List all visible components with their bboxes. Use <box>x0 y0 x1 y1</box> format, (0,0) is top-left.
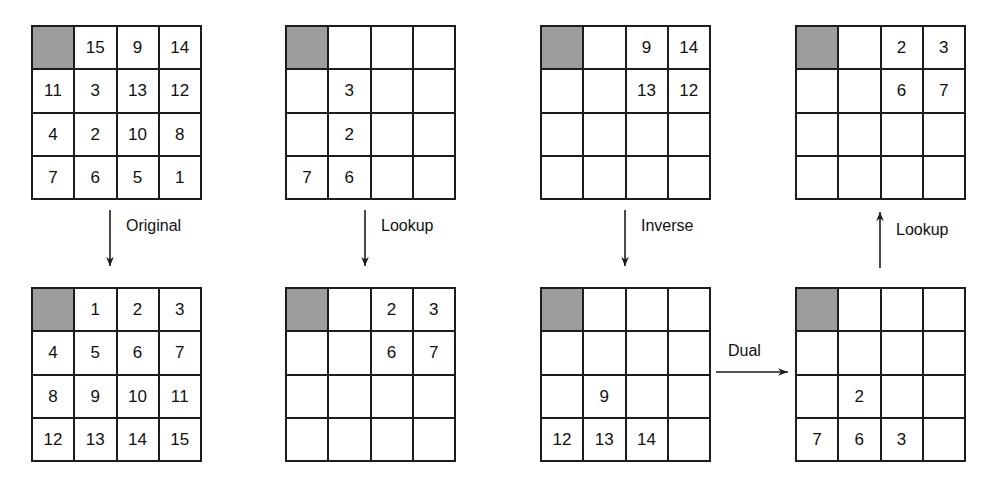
grid-cell <box>542 157 584 200</box>
grid-cell <box>669 332 711 375</box>
grid-cell <box>287 114 329 157</box>
grid-cell <box>584 332 626 375</box>
bottom-left-grid: 123456789101112131415 <box>31 287 202 462</box>
grid-cell: 15 <box>160 419 202 462</box>
grid-cell <box>797 376 839 419</box>
grid-cell <box>839 332 881 375</box>
grid-cell <box>372 114 414 157</box>
grid-cell <box>287 376 329 419</box>
grid-cell: 7 <box>797 419 839 462</box>
grid-cell-shaded <box>797 27 839 70</box>
grid-cell: 6 <box>372 332 414 375</box>
grid-cell <box>372 157 414 200</box>
grid-cell: 14 <box>669 27 711 70</box>
grid-cell: 5 <box>75 332 117 375</box>
grid-cell <box>882 289 924 332</box>
grid-cell <box>839 70 881 113</box>
grid-cell <box>882 332 924 375</box>
grid-cell <box>414 70 456 113</box>
bottom-second-grid: 2367 <box>285 287 456 462</box>
grid-cell <box>924 332 966 375</box>
grid-cell <box>542 70 584 113</box>
grid-cell: 2 <box>372 289 414 332</box>
grid-cell <box>372 70 414 113</box>
grid-cell: 7 <box>287 157 329 200</box>
arrow-original <box>103 210 117 266</box>
grid-cell: 3 <box>75 70 117 113</box>
grid-cell-shaded <box>542 27 584 70</box>
grid-cell: 13 <box>75 419 117 462</box>
grid-cell: 14 <box>160 27 202 70</box>
grid-cell <box>542 114 584 157</box>
grid-cell: 3 <box>414 289 456 332</box>
grid-cell: 2 <box>329 114 371 157</box>
grid-cell <box>627 114 669 157</box>
grid-cell: 7 <box>924 70 966 113</box>
grid-cell <box>414 376 456 419</box>
grid-cell: 6 <box>75 157 117 200</box>
grid-cell <box>372 419 414 462</box>
grid-cell <box>414 114 456 157</box>
grid-cell <box>797 332 839 375</box>
grid-cell <box>839 27 881 70</box>
grid-cell <box>669 114 711 157</box>
grid-cell <box>329 289 371 332</box>
arrow-lookup-right-label: Lookup <box>896 222 949 238</box>
arrow-dual <box>716 365 788 379</box>
grid-cell <box>542 332 584 375</box>
grid-cell: 11 <box>160 376 202 419</box>
grid-cell: 14 <box>118 419 160 462</box>
grid-cell <box>584 70 626 113</box>
grid-cell <box>287 419 329 462</box>
arrow-lookup-right <box>873 212 887 268</box>
grid-cell: 10 <box>118 114 160 157</box>
grid-cell: 2 <box>839 376 881 419</box>
top-third-grid: 9141312 <box>540 25 711 200</box>
arrow-original-label: Original <box>126 218 181 234</box>
bottom-third-grid: 9121314 <box>540 287 711 462</box>
grid-cell <box>924 419 966 462</box>
grid-cell: 9 <box>118 27 160 70</box>
grid-cell <box>414 157 456 200</box>
grid-cell <box>882 376 924 419</box>
grid-cell <box>372 376 414 419</box>
grid-cell <box>287 332 329 375</box>
arrow-inverse-label: Inverse <box>641 218 693 234</box>
grid-cell <box>584 114 626 157</box>
grid-cell: 13 <box>118 70 160 113</box>
grid-cell <box>329 332 371 375</box>
grid-cell <box>329 27 371 70</box>
grid-cell: 13 <box>584 419 626 462</box>
grid-cell <box>584 289 626 332</box>
arrow-dual-label: Dual <box>728 343 761 359</box>
grid-cell: 11 <box>33 70 75 113</box>
grid-cell: 12 <box>669 70 711 113</box>
grid-cell: 9 <box>75 376 117 419</box>
grid-cell: 1 <box>160 157 202 200</box>
grid-cell <box>627 332 669 375</box>
grid-cell <box>329 419 371 462</box>
grid-cell <box>627 376 669 419</box>
grid-cell: 6 <box>118 332 160 375</box>
grid-cell: 6 <box>882 70 924 113</box>
grid-cell: 7 <box>33 157 75 200</box>
grid-cell: 8 <box>160 114 202 157</box>
grid-cell <box>882 157 924 200</box>
grid-cell: 9 <box>627 27 669 70</box>
grid-cell <box>414 27 456 70</box>
grid-cell: 4 <box>33 114 75 157</box>
grid-cell <box>669 157 711 200</box>
grid-cell: 1 <box>75 289 117 332</box>
grid-cell <box>287 70 329 113</box>
grid-cell: 12 <box>542 419 584 462</box>
grid-cell: 10 <box>118 376 160 419</box>
arrow-lookup-left <box>358 210 372 266</box>
grid-cell <box>924 114 966 157</box>
grid-cell <box>882 114 924 157</box>
grid-cell: 13 <box>627 70 669 113</box>
grid-cell <box>627 289 669 332</box>
grid-cell-shaded <box>542 289 584 332</box>
grid-cell: 8 <box>33 376 75 419</box>
grid-cell: 3 <box>329 70 371 113</box>
grid-cell <box>372 27 414 70</box>
